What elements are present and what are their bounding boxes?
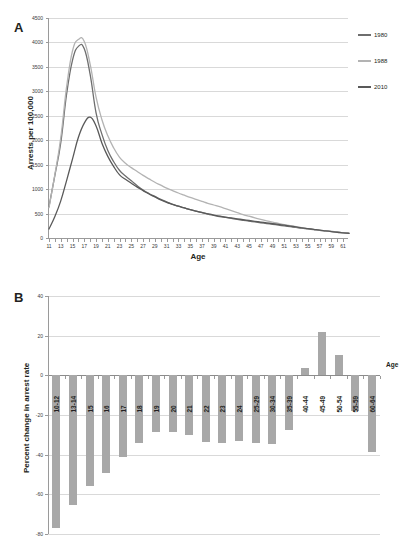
x-axis-tick-mark (214, 376, 215, 379)
x-axis-tick-mark (137, 239, 138, 242)
x-axis-tick-mark (81, 376, 82, 379)
x-axis-tick-label: 13 (58, 243, 64, 249)
x-axis-tick-mark (98, 376, 99, 379)
panel-b-x-axis-title: Age (386, 361, 398, 368)
x-axis-tick-mark (231, 376, 232, 379)
x-axis-tick-mark (330, 376, 331, 379)
panel-b-plot-area: 40200-20-40-60-80 10-1213-14151617181920… (48, 296, 380, 534)
x-axis-tick-mark (114, 239, 115, 242)
x-axis-tick-mark (231, 239, 232, 242)
x-axis-tick-mark (96, 239, 97, 242)
x-axis-tick-label: 49 (270, 243, 276, 249)
bar-category-label: 40-44 (302, 379, 309, 413)
x-axis-tick-mark (148, 376, 149, 379)
x-axis-tick-mark (243, 239, 244, 242)
legend-swatch-icon (358, 86, 371, 88)
y-axis-tick-label: 40 (37, 293, 43, 299)
x-axis-tick-mark (347, 376, 348, 379)
legend-item-label: 1988 (374, 58, 387, 64)
y-axis-tick-label: -60 (36, 491, 43, 497)
x-axis-tick-mark (190, 239, 191, 242)
x-axis-line (49, 238, 348, 239)
y-axis-tick-label: 1500 (32, 162, 43, 168)
x-axis-tick-mark (149, 239, 150, 242)
x-axis-tick-mark (255, 239, 256, 242)
panel-a-plot-area: 050010001500200025003000350040004500 111… (48, 18, 348, 238)
panel-a-series-lines (49, 18, 349, 238)
x-axis-tick-mark (120, 239, 121, 242)
x-axis-tick-label: 17 (82, 243, 88, 249)
x-axis-tick-mark (173, 239, 174, 242)
figure-container: A Arrests per 100,000 050010001500200025… (0, 0, 417, 559)
x-axis-tick-label: 41 (223, 243, 229, 249)
x-axis-tick-mark (78, 239, 79, 242)
y-axis-tick-label: 4000 (32, 39, 43, 45)
panel-b: B Percent change in arrest rate 40200-20… (0, 276, 417, 559)
x-axis-tick-mark (247, 376, 248, 379)
x-axis-tick-label: 39 (211, 243, 217, 249)
y-axis-tick-mark (45, 415, 48, 416)
gridline (48, 534, 380, 535)
legend-item-label: 2010 (374, 84, 387, 90)
x-axis-tick-mark (278, 239, 279, 242)
panel-a: A Arrests per 100,000 050010001500200025… (0, 0, 417, 276)
x-axis-tick-mark (343, 239, 344, 242)
bar-category-label: 18 (136, 379, 143, 413)
y-axis-tick-mark (45, 494, 48, 495)
y-axis-tick-label: -80 (36, 531, 43, 537)
x-axis-tick-mark (184, 239, 185, 242)
x-axis-tick-label: 55 (305, 243, 311, 249)
y-axis-tick-label: 4500 (32, 15, 43, 21)
y-axis-tick-label: 3000 (32, 88, 43, 94)
y-axis-tick-label: 500 (35, 211, 43, 217)
x-axis-tick-mark (197, 376, 198, 379)
bar[interactable] (335, 355, 343, 376)
x-axis-tick-label: 23 (117, 243, 123, 249)
bar-category-label: 13-14 (69, 379, 76, 413)
x-axis-tick-label: 57 (317, 243, 323, 249)
x-axis-tick-mark (249, 239, 250, 242)
x-axis-tick-mark (131, 376, 132, 379)
x-axis-tick-label: 45 (246, 243, 252, 249)
x-axis-tick-mark (202, 239, 203, 242)
x-axis-tick-mark (280, 376, 281, 379)
x-axis-tick-mark (90, 239, 91, 242)
bar-category-label: 60-64 (368, 379, 375, 413)
bar-category-label: 45-49 (318, 379, 325, 413)
x-axis-tick-mark (49, 239, 50, 242)
y-axis-tick-label: -40 (36, 452, 43, 458)
x-axis-tick-label: 33 (176, 243, 182, 249)
x-axis-tick-mark (164, 376, 165, 379)
x-axis-tick-label: 21 (105, 243, 111, 249)
x-axis-tick-mark (325, 239, 326, 242)
bar-category-label: 24 (235, 379, 242, 413)
bar-category-label: 10-12 (53, 379, 60, 413)
x-axis-tick-mark (67, 239, 68, 242)
x-axis-tick-mark (61, 239, 62, 242)
legend-item-1988[interactable]: 1988 (358, 48, 416, 74)
x-axis-tick-mark (220, 239, 221, 242)
y-axis-tick-label: -20 (36, 412, 43, 418)
y-axis-tick-label: 2000 (32, 137, 43, 143)
x-axis-tick-mark (302, 239, 303, 242)
bar-category-label: 22 (202, 379, 209, 413)
x-axis-tick-mark (65, 376, 66, 379)
bar[interactable] (301, 368, 309, 375)
x-axis-tick-mark (297, 376, 298, 379)
line-series-1980 (49, 44, 349, 233)
panel-a-x-axis-title: Age (48, 252, 348, 261)
x-axis-tick-mark (290, 239, 291, 242)
legend-item-1980[interactable]: 1980 (358, 22, 416, 48)
bar-category-label: 17 (119, 379, 126, 413)
gridline (48, 455, 380, 456)
y-axis-tick-label: 0 (40, 372, 43, 378)
bar[interactable] (318, 332, 326, 376)
x-axis-tick-label: 11 (46, 243, 51, 249)
legend-item-2010[interactable]: 2010 (358, 74, 416, 100)
x-axis-tick-mark (320, 239, 321, 242)
x-axis-tick-label: 31 (164, 243, 170, 249)
gridline (48, 415, 380, 416)
x-axis-tick-mark (125, 239, 126, 242)
bar-category-label: 21 (186, 379, 193, 413)
x-axis-tick-mark (296, 239, 297, 242)
